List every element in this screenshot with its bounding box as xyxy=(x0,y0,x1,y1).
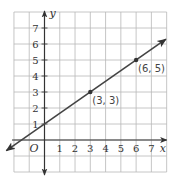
coordinate-graph: xy 12345671234567O (3, 3)(6, 5) xyxy=(0,0,172,179)
data-point xyxy=(134,58,138,62)
y-tick-label: 3 xyxy=(32,87,38,98)
x-tick-label: 5 xyxy=(118,143,124,154)
y-tick-label: 7 xyxy=(32,23,38,34)
y-tick-label: 2 xyxy=(32,103,38,114)
x-axis-label: x xyxy=(160,142,167,155)
data-point-label: (6, 5) xyxy=(138,63,165,74)
x-tick-label: 3 xyxy=(87,143,93,154)
y-tick-label: 4 xyxy=(32,71,38,82)
x-tick-label: 6 xyxy=(133,143,139,154)
data-point xyxy=(88,90,92,94)
x-tick-label: 7 xyxy=(148,143,154,154)
y-tick-label: 5 xyxy=(32,55,38,66)
data-points: (3, 3)(6, 5) xyxy=(88,58,165,106)
y-tick-label: 6 xyxy=(32,39,38,50)
data-point-label: (3, 3) xyxy=(92,95,119,106)
x-tick-label: 2 xyxy=(72,143,78,154)
graph-line xyxy=(6,39,166,150)
x-tick-label: 1 xyxy=(57,143,63,154)
y-axis-label: y xyxy=(49,7,57,20)
origin-label: O xyxy=(29,142,38,155)
x-tick-label: 4 xyxy=(102,143,108,154)
plot-line xyxy=(6,39,166,150)
y-tick-label: 1 xyxy=(32,119,38,130)
